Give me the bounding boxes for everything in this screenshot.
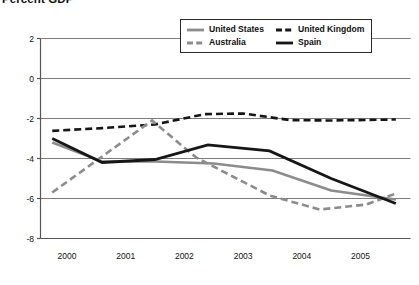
x-tick-label: 2001 bbox=[116, 251, 135, 261]
x-tick-label: 2000 bbox=[57, 251, 76, 261]
legend-entry[interactable]: Australia bbox=[187, 37, 264, 48]
legend-entry[interactable]: Spain bbox=[276, 37, 364, 48]
legend-label: Spain bbox=[298, 37, 321, 48]
legend-entry[interactable]: United States bbox=[187, 24, 264, 35]
legend-swatch-solid-icon bbox=[187, 25, 204, 35]
x-tick-label: 2004 bbox=[292, 251, 311, 261]
x-tick-label: 2005 bbox=[351, 251, 370, 261]
legend-swatch-solid-icon bbox=[276, 38, 293, 48]
x-tick-label: 2002 bbox=[175, 251, 194, 261]
legend-label: Australia bbox=[209, 37, 246, 48]
x-tick-label: 2003 bbox=[234, 251, 253, 261]
chart-legend: United StatesUnited KingdomAustraliaSpai… bbox=[180, 19, 372, 53]
legend-label: United States bbox=[209, 24, 264, 35]
legend-swatch-dashed-icon bbox=[187, 38, 204, 48]
chart-container: Percent GDP 20-2-4-6-8 20002001200220032… bbox=[0, 0, 419, 285]
legend-entry[interactable]: United Kingdom bbox=[276, 24, 364, 35]
legend-swatch-dashed-icon bbox=[276, 25, 293, 35]
legend-label: United Kingdom bbox=[298, 24, 364, 35]
